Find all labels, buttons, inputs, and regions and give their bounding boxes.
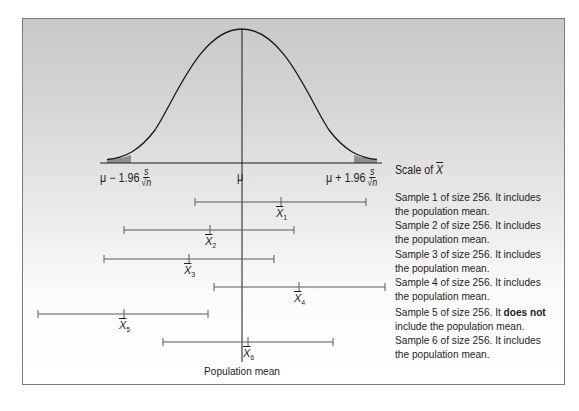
lower-bound-label: μ − 1.96 s √n — [100, 167, 151, 188]
mu-text: μ — [237, 170, 243, 184]
mu-label: μ — [237, 170, 243, 184]
lower-bound-text: μ − 1.96 — [100, 171, 140, 185]
interval-4 — [214, 282, 385, 292]
xbar-3-label: X3 — [184, 264, 195, 278]
xbar-2-label: X2 — [205, 235, 216, 249]
interval-2 — [124, 225, 294, 235]
xbar-1-label: X1 — [276, 207, 287, 221]
s-over-root-n-fraction: s √n — [141, 167, 151, 188]
xbar-6-label: X6 — [243, 347, 254, 361]
interval-6 — [163, 337, 333, 347]
interval-3 — [104, 254, 274, 264]
sample-2-description: Sample 2 of size 256. It includesthe pop… — [395, 218, 541, 246]
population-mean-label: Population mean — [204, 364, 280, 378]
xbar-5-label: X5 — [119, 319, 130, 333]
upper-bound-label: μ + 1.96 s √n — [326, 167, 377, 188]
xbar-4-label: X4 — [294, 292, 305, 306]
fraction-denominator: √n — [141, 178, 151, 188]
scale-of-xbar-label: Scale of X — [395, 163, 443, 177]
sample-4-description: Sample 4 of size 256. It includesthe pop… — [395, 275, 541, 303]
sample-3-description: Sample 3 of size 256. It includesthe pop… — [395, 247, 541, 275]
sample-5-description: Sample 5 of size 256. It does notinclude… — [395, 305, 546, 333]
interval-5 — [38, 309, 208, 319]
s-over-root-n-fraction: s √n — [367, 167, 377, 188]
sample-6-description: Sample 6 of size 256. It includesthe pop… — [395, 333, 541, 361]
fraction-denominator: √n — [367, 178, 377, 188]
upper-bound-text: μ + 1.96 — [326, 171, 366, 185]
sample-1-description: Sample 1 of size 256. It includesthe pop… — [395, 190, 541, 218]
interval-1 — [195, 197, 366, 207]
